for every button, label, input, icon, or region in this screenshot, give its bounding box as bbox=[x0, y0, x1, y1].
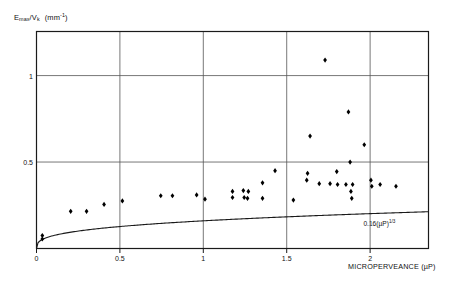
data-point-marker bbox=[369, 178, 373, 183]
data-point-marker bbox=[351, 182, 355, 187]
plot-frame bbox=[37, 32, 429, 249]
y-tick-label: 1 bbox=[8, 72, 33, 79]
data-point-marker bbox=[292, 197, 296, 202]
data-point-marker bbox=[347, 109, 351, 114]
data-point-marker bbox=[317, 181, 321, 186]
data-point-marker bbox=[335, 169, 339, 174]
data-point-marker bbox=[246, 196, 250, 201]
data-point-marker bbox=[69, 209, 73, 214]
data-point-marker bbox=[323, 57, 327, 62]
data-point-marker bbox=[231, 195, 235, 200]
data-point-marker bbox=[85, 209, 89, 214]
data-point-marker bbox=[344, 182, 348, 187]
data-point-marker bbox=[306, 171, 310, 176]
data-point-marker bbox=[241, 188, 245, 193]
data-point-marker bbox=[121, 198, 125, 203]
x-tick-label: 1.5 bbox=[282, 255, 292, 262]
data-point-marker bbox=[336, 182, 340, 187]
data-point-marker bbox=[171, 193, 175, 198]
data-point-marker bbox=[362, 142, 366, 147]
data-point-marker bbox=[261, 196, 265, 201]
data-point-marker bbox=[231, 189, 235, 194]
data-point-marker bbox=[159, 193, 163, 198]
data-point-marker bbox=[261, 180, 265, 185]
x-tick-label: 1 bbox=[201, 255, 205, 262]
data-point-marker bbox=[102, 202, 106, 207]
scatter-chart-figure: Emax/Vk(mm-1) MICROPERVEANCE (µP) 0.16(µ… bbox=[0, 0, 450, 290]
data-point-marker bbox=[328, 181, 332, 186]
data-point-marker bbox=[305, 178, 309, 183]
data-point-marker bbox=[378, 182, 382, 187]
plot-canvas bbox=[0, 0, 450, 290]
data-point-marker bbox=[350, 196, 354, 201]
data-point-marker bbox=[348, 159, 352, 164]
data-point-marker bbox=[246, 189, 250, 194]
data-point-marker bbox=[242, 195, 246, 200]
x-tick-label: 0.5 bbox=[115, 255, 125, 262]
x-tick-label: 2 bbox=[368, 255, 372, 262]
x-tick-label: 0 bbox=[35, 255, 39, 262]
data-point-marker bbox=[308, 134, 312, 139]
data-point-marker bbox=[195, 192, 199, 197]
y-tick-label: 0.5 bbox=[8, 159, 33, 166]
data-point-marker bbox=[273, 168, 277, 173]
data-point-marker bbox=[394, 184, 398, 189]
fit-curve bbox=[37, 212, 429, 249]
scatter-series bbox=[40, 57, 397, 241]
data-point-marker bbox=[349, 189, 353, 194]
